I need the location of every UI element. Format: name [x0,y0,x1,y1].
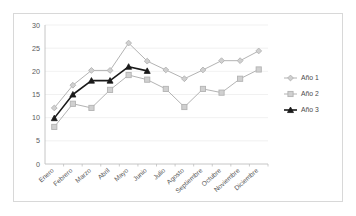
x-tick-label-febrero: Febrero [52,166,74,187]
series-line [54,67,147,118]
legend-label-año-2: Año 2 [301,90,319,97]
data-point-marker [219,90,224,95]
data-point-marker [182,104,187,109]
data-point-marker [237,58,243,64]
series-line [54,69,258,126]
series-line [54,43,258,108]
series-año-2 [52,67,262,130]
y-tick-label: 0 [36,160,40,169]
legend-label-año-3: Año 3 [301,106,319,113]
x-tick-label-marzo: Marzo [74,166,93,184]
y-tick-label: 20 [32,67,40,76]
x-tick-label-junio: Junio [131,166,148,182]
chart-frame: 051015202530 EneroFebreroMarzoAbrilMayoJ… [13,13,343,202]
y-tick-label: 5 [36,136,40,145]
data-point-marker [70,101,75,106]
data-point-marker [52,124,57,129]
data-point-marker [256,48,262,54]
y-tick-label: 30 [32,21,40,30]
x-tick-label-abril: Abril [96,166,111,180]
chart-legend: Año 1Año 2Año 3 [284,74,319,113]
x-tick-label-mayo: Mayo [113,166,131,183]
data-point-marker [107,87,112,92]
legend-marker-2 [288,91,293,96]
legend-marker-1 [288,75,294,81]
data-point-marker [238,76,243,81]
data-point-marker [126,72,131,77]
y-tick-label: 15 [32,90,40,99]
data-point-marker [89,105,94,110]
axes [45,25,268,167]
data-point-marker [107,68,113,74]
y-axis-tick-labels: 051015202530 [32,21,40,169]
data-point-marker [200,86,205,91]
x-axis-category-labels: EneroFebreroMarzoAbrilMayoJunioJulioAgos… [37,166,259,195]
y-tick-label: 10 [32,113,40,122]
x-tick-label-julio: Julio [152,166,167,180]
data-point-marker [145,77,150,82]
data-point-marker [163,86,168,91]
line-chart: 051015202530 EneroFebreroMarzoAbrilMayoJ… [14,14,342,201]
data-series-group [51,40,261,129]
series-año-1 [51,40,261,111]
data-point-marker [181,76,187,82]
data-point-marker [256,67,261,72]
data-point-marker [219,58,225,64]
legend-label-año-1: Año 1 [301,74,319,81]
data-point-marker [163,67,169,73]
y-tick-label: 25 [32,44,40,53]
data-point-marker [200,67,206,73]
